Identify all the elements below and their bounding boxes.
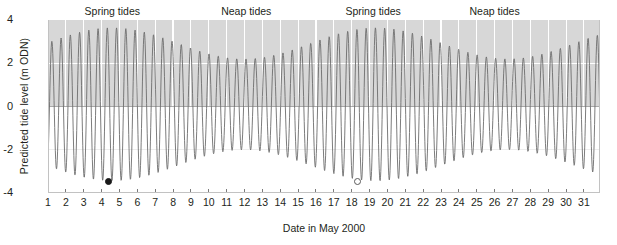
tide-chart-figure: Predicted tide level (m ODN) 420-2-4 Spr… xyxy=(0,0,617,245)
axis-ticks xyxy=(48,20,600,193)
plot-area xyxy=(48,20,600,193)
y-axis-tick-label: -4 xyxy=(0,187,13,198)
x-axis-title: Date in May 2000 xyxy=(48,222,600,234)
chart-annotation-neap-tides-3: Neap tides xyxy=(425,5,565,17)
y-axis-tick-label: 2 xyxy=(0,57,13,68)
new-moon-icon xyxy=(105,178,112,185)
chart-annotation-neap-tides-1: Neap tides xyxy=(176,5,316,17)
x-axis-tick-label: 31 xyxy=(569,197,599,208)
chart-annotation-spring-tides-0: Spring tides xyxy=(42,5,182,17)
full-moon-icon xyxy=(354,178,361,185)
y-axis-tick-label: 4 xyxy=(0,14,13,25)
y-axis-title: Predicted tide level (m ODN) xyxy=(18,16,30,196)
chart-annotation-spring-tides-2: Spring tides xyxy=(303,5,443,17)
y-axis-tick-label: 0 xyxy=(0,101,13,112)
y-axis-tick-label: -2 xyxy=(0,144,13,155)
